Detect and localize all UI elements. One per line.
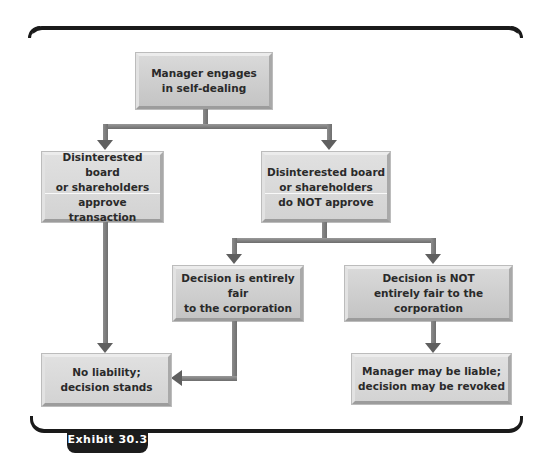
connector-to-not-approve <box>327 124 332 141</box>
connector-start-horizontal <box>103 124 332 129</box>
node-not-entirely-fair: Decision is NOT entirely fair to the cor… <box>345 266 512 321</box>
frame-top-border <box>28 26 523 40</box>
arrow-down-icon <box>425 254 441 264</box>
node-manager-liable: Manager may be liable; decision may be r… <box>352 354 511 404</box>
arrow-down-icon <box>425 343 441 353</box>
box-divider <box>265 193 387 194</box>
node-label: No liability; decision stands <box>60 365 152 395</box>
connector-not-fair-to-liable <box>431 321 436 344</box>
connector-approve-to-no-liability <box>103 222 108 344</box>
arrow-down-icon <box>226 254 242 264</box>
connector-to-not-fair <box>431 238 436 255</box>
node-no-liability: No liability; decision stands <box>42 354 171 406</box>
connector-to-fair <box>232 238 237 255</box>
arrow-down-icon <box>97 140 113 150</box>
node-board-not-approve: Disinterested board or shareholders do N… <box>262 152 390 222</box>
arrow-down-icon <box>97 343 113 353</box>
node-label: Disinterested board or shareholders do N… <box>267 165 385 210</box>
connector-fair-left <box>181 376 237 381</box>
arrow-left-icon <box>171 370 182 386</box>
node-entirely-fair: Decision is entirely fair to the corpora… <box>173 266 303 321</box>
connector-to-approve <box>103 124 108 141</box>
connector-fair-down <box>232 321 237 381</box>
node-label: Decision is NOT entirely fair to the cor… <box>348 271 509 316</box>
node-manager-self-dealing: Manager engages in self-dealing <box>136 53 272 109</box>
exhibit-label: Exhibit 30.3 <box>67 431 148 453</box>
node-label: Manager engages in self-dealing <box>151 66 257 96</box>
node-label: Decision is entirely fair to the corpora… <box>176 271 300 316</box>
node-label: Manager may be liable; decision may be r… <box>358 364 505 394</box>
node-board-approves: Disinterested board or shareholders appr… <box>42 152 163 222</box>
arrow-down-icon <box>321 140 337 150</box>
connector-not-approve-horizontal <box>232 238 436 243</box>
box-divider <box>45 193 160 194</box>
node-label: Disinterested board or shareholders appr… <box>45 150 160 225</box>
